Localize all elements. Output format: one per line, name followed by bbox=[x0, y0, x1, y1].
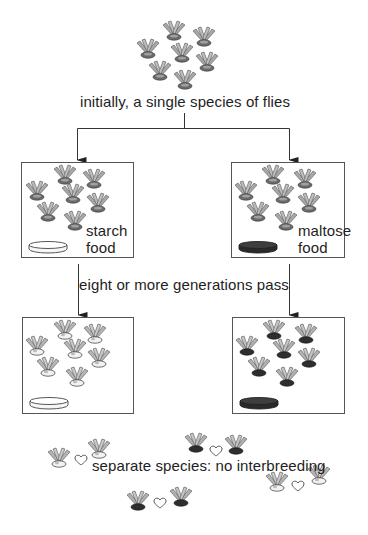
fly-icon bbox=[170, 487, 192, 506]
fly-icon bbox=[88, 439, 110, 458]
fly-icon bbox=[149, 61, 171, 80]
starch-food-dish-icon bbox=[29, 242, 67, 254]
heart-icon bbox=[154, 498, 166, 508]
starch-label-line2: food bbox=[86, 239, 127, 256]
initial-fly-population bbox=[137, 21, 218, 89]
maltose-label-line1: maltose bbox=[298, 222, 351, 239]
maltose-food-label: maltose food bbox=[298, 222, 351, 256]
mating-pair-dark-1 bbox=[185, 433, 247, 456]
fly-icon bbox=[137, 39, 159, 58]
maltose-food-dish-icon bbox=[239, 242, 277, 254]
separate-species-label: separate species: no interbreeding bbox=[92, 458, 326, 474]
fly-icon bbox=[196, 52, 218, 71]
fly-icon bbox=[171, 43, 193, 62]
mating-pair-dark-2 bbox=[127, 487, 192, 510]
fly-icon bbox=[48, 448, 70, 467]
speciation-diagram bbox=[0, 0, 368, 535]
fly-icon bbox=[193, 27, 215, 46]
starch-food-dish-icon bbox=[30, 398, 68, 409]
maltose-food-dish-icon bbox=[240, 398, 278, 410]
fly-icon bbox=[174, 70, 196, 89]
fly-icon bbox=[266, 472, 288, 491]
fly-icon bbox=[185, 433, 207, 452]
generations-label: eight or more generations pass bbox=[79, 277, 289, 293]
fly-icon bbox=[163, 21, 185, 40]
initial-population-label: initially, a single species of flies bbox=[80, 94, 290, 110]
fly-icon bbox=[127, 491, 149, 510]
branch-connector bbox=[78, 113, 290, 160]
starch-label-line1: starch bbox=[86, 222, 127, 239]
heart-icon bbox=[210, 446, 222, 456]
heart-icon bbox=[292, 481, 304, 491]
maltose-end-box bbox=[233, 318, 345, 414]
fly-icon bbox=[225, 435, 247, 454]
maltose-label-line2: food bbox=[298, 239, 351, 256]
heart-icon bbox=[75, 455, 87, 465]
starch-end-box bbox=[23, 318, 134, 414]
starch-food-label: starch food bbox=[86, 222, 127, 256]
